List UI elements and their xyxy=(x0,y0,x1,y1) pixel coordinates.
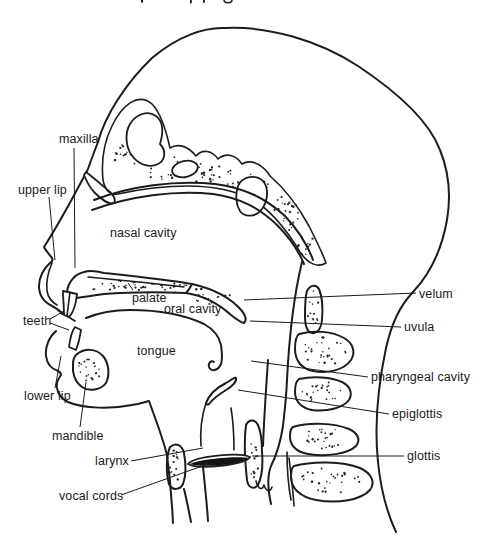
label-nasal-cavity: nasal cavity xyxy=(110,227,177,241)
larynx-inlet-back xyxy=(231,408,234,450)
label-vocal-cords: vocal cords xyxy=(59,490,123,504)
sella-opening xyxy=(171,158,200,179)
vocal-tract-diagram: maxilla upper lip teeth lower lip mandib… xyxy=(0,0,483,549)
label-maxilla: maxilla xyxy=(59,133,99,147)
label-upper-lip: upper lip xyxy=(18,184,67,198)
label-larynx: larynx xyxy=(95,455,129,469)
laryngopharynx-front-wall xyxy=(263,360,268,446)
trachea-wall-right xyxy=(203,467,208,521)
label-teeth: teeth xyxy=(23,315,51,329)
vertebra-3 xyxy=(290,424,358,455)
label-glottis: glottis xyxy=(407,450,440,464)
label-pharyngeal-cavity: pharyngeal cavity xyxy=(371,371,470,385)
leader-upper-lip xyxy=(49,197,55,260)
sphenoid-sinus xyxy=(236,177,267,216)
leader-velum xyxy=(244,293,416,300)
cropped-title-fragments xyxy=(141,0,232,3)
label-tongue: tongue xyxy=(137,345,176,359)
upper-lip-inner-line xyxy=(47,263,57,305)
label-lower-lip: lower lip xyxy=(24,390,71,404)
epiglottis-shape xyxy=(206,378,236,405)
larynx-inlet-front xyxy=(201,403,206,446)
mandible-bone xyxy=(73,350,109,390)
label-uvula: uvula xyxy=(404,321,434,335)
lower-teeth-shape xyxy=(69,327,81,350)
trachea-wall-left xyxy=(184,489,191,522)
vertebra-4 xyxy=(291,462,373,501)
palate-inner-line xyxy=(88,277,184,287)
bone-stipple xyxy=(78,144,360,493)
label-oral-cavity: oral cavity xyxy=(164,303,221,317)
label-epiglottis: epiglottis xyxy=(392,408,442,422)
leader-vocal-cords xyxy=(121,464,208,495)
esophagus-line-1 xyxy=(268,426,283,504)
leader-pharyngeal-cavity xyxy=(251,361,368,377)
vertebra-odontoid xyxy=(305,286,322,333)
leader-teeth-lower xyxy=(50,323,69,330)
label-velum: velum xyxy=(419,288,453,302)
leader-palate xyxy=(128,283,133,290)
nasal-roof-line-outer xyxy=(94,183,313,260)
frontal-sinus xyxy=(127,113,165,166)
leader-maxilla xyxy=(74,148,75,268)
pharynx-back-wall xyxy=(283,262,302,426)
leader-teeth-upper xyxy=(50,311,64,319)
vertebra-2 xyxy=(295,377,351,410)
label-mandible: mandible xyxy=(52,430,104,444)
leader-uvula xyxy=(250,321,401,327)
vocal-tract-line-art xyxy=(0,0,483,549)
label-palate: palate xyxy=(132,292,167,306)
